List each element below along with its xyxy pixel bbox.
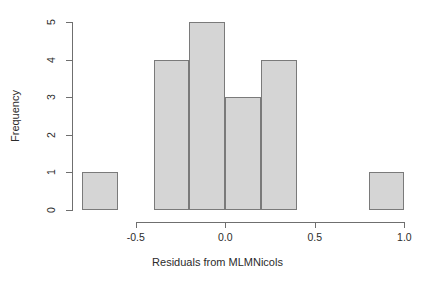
y-axis-tick	[66, 97, 72, 98]
x-axis-tick	[225, 222, 226, 228]
histogram-bar	[189, 22, 225, 210]
x-axis-title: Residuals from MLMNicols	[0, 256, 435, 268]
y-axis-tick	[66, 172, 72, 173]
x-axis-tick	[404, 222, 405, 228]
y-axis-tick-label: 4	[45, 49, 57, 71]
x-axis-tick	[136, 222, 137, 228]
y-axis-tick-label: 3	[45, 86, 57, 108]
x-axis-line	[136, 222, 405, 223]
x-axis-tick-label: 0.0	[200, 231, 250, 243]
histogram-bar	[369, 172, 405, 210]
y-axis-tick	[66, 60, 72, 61]
y-axis-tick-label: 2	[45, 124, 57, 146]
y-axis-line	[72, 22, 73, 211]
x-axis-tick-label: 1.0	[379, 231, 429, 243]
x-axis-tick	[315, 222, 316, 228]
histogram-bar	[82, 172, 118, 210]
y-axis-tick	[66, 210, 72, 211]
plot-area	[73, 22, 408, 210]
histogram-bar	[154, 60, 190, 210]
y-axis-tick-label: 5	[45, 11, 57, 33]
y-axis-title: Frequency	[9, 41, 21, 191]
y-axis-tick	[66, 135, 72, 136]
y-axis-tick-label: 0	[45, 199, 57, 221]
histogram-bar	[225, 97, 261, 210]
x-axis-tick-label: 0.5	[290, 231, 340, 243]
histogram-plot: 012345 Frequency -0.50.00.51.0 Residuals…	[0, 0, 435, 282]
y-axis-tick	[66, 22, 72, 23]
x-axis-tick-label: -0.5	[111, 231, 161, 243]
histogram-bar	[261, 60, 297, 210]
y-axis-tick-label: 1	[45, 161, 57, 183]
